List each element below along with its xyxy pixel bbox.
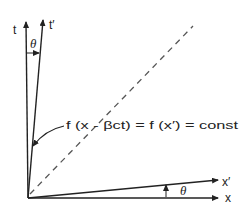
dashed-light-line <box>30 26 193 194</box>
lower-theta-label: θ <box>180 183 187 198</box>
annotation-pointer-arrow <box>33 126 64 146</box>
function-annotation: f (x - βct) = f (x′) = const <box>66 119 239 131</box>
t-axis <box>26 22 28 198</box>
upper-theta-label: θ <box>30 36 37 51</box>
spacetime-diagram: t t′ θ x′ x θ f (x - βct) = f (x′) = con… <box>0 0 246 212</box>
x-prime-axis <box>28 180 218 198</box>
t-axis-label: t <box>13 23 17 37</box>
x-prime-axis-label: x′ <box>222 175 231 189</box>
t-prime-axis-label: t′ <box>49 18 55 32</box>
x-axis-label: x <box>225 191 231 205</box>
